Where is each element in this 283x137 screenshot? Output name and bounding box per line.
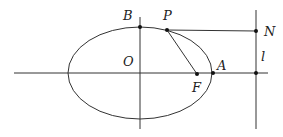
ellipse-diagram: B P N O A F l bbox=[0, 0, 283, 137]
point-B bbox=[138, 25, 142, 29]
segment-PF bbox=[167, 30, 197, 74]
point-N bbox=[254, 29, 258, 33]
point-l-axis bbox=[254, 71, 258, 75]
label-l: l bbox=[261, 49, 265, 64]
point-A bbox=[211, 71, 215, 75]
label-O: O bbox=[123, 54, 134, 69]
label-P: P bbox=[162, 8, 172, 23]
point-F bbox=[195, 72, 199, 76]
label-A: A bbox=[216, 58, 226, 73]
label-B: B bbox=[122, 8, 133, 23]
label-N: N bbox=[263, 24, 276, 39]
segment-PN bbox=[167, 30, 256, 31]
label-F: F bbox=[191, 80, 202, 95]
point-P bbox=[165, 28, 169, 32]
